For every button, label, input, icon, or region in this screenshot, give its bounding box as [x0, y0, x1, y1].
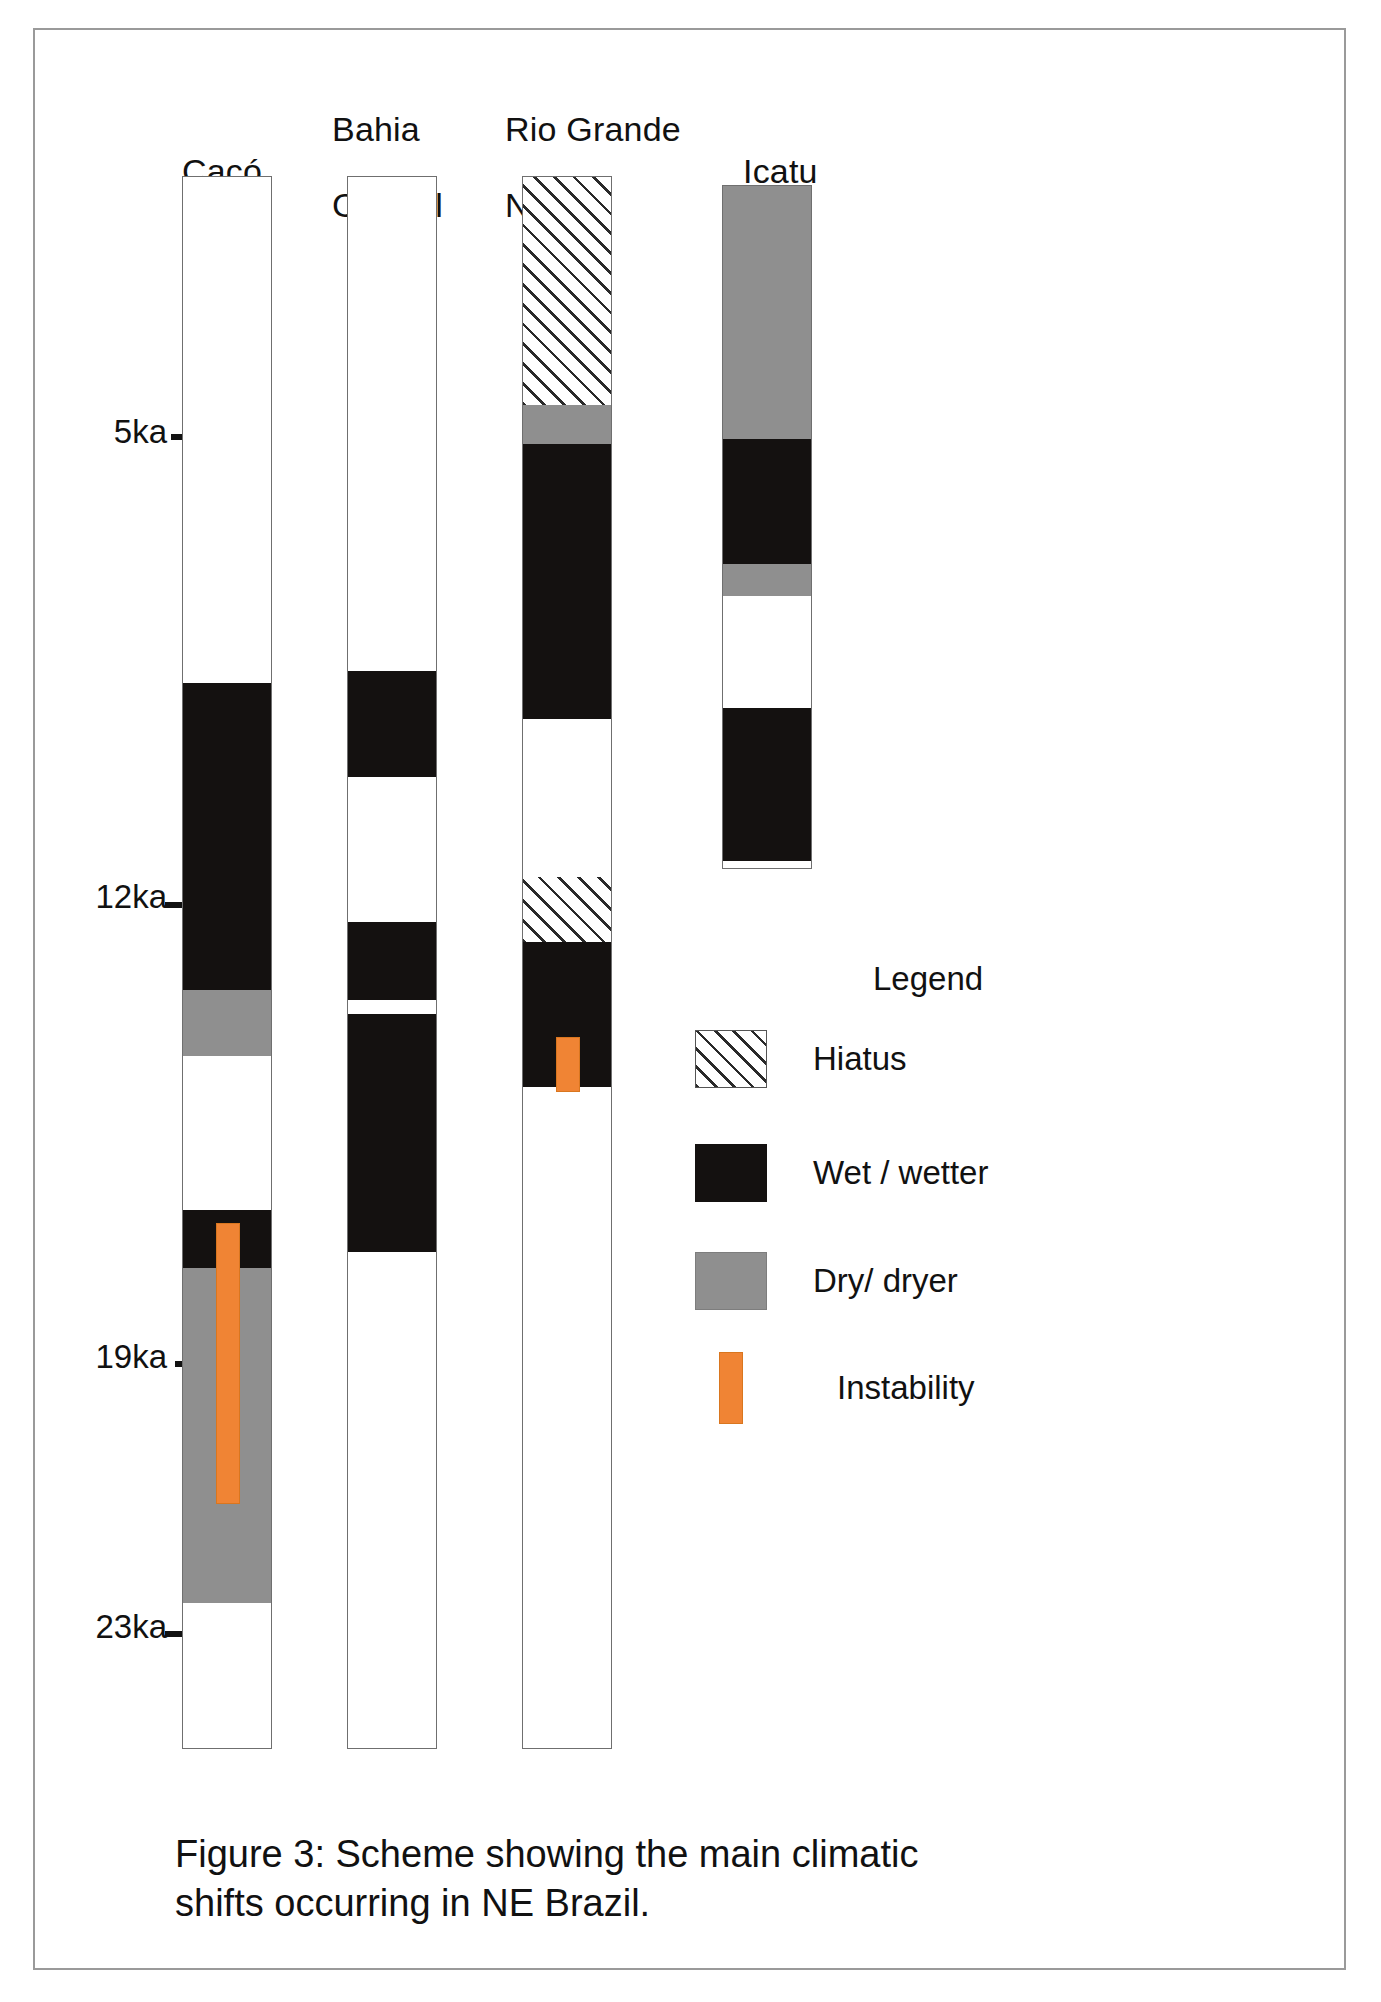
segment-icatu-dry-2	[723, 564, 811, 596]
tick-text-12ka: 12ka	[95, 878, 167, 915]
legend-item-instability[interactable]: Instability	[695, 1352, 975, 1424]
legend-label-instability: Instability	[837, 1369, 975, 1407]
segment-icatu-wet-1	[723, 439, 811, 564]
segment-bahia-none-4	[348, 1252, 436, 1749]
segment-rgn-hiatus-1	[523, 177, 611, 405]
column-icatu[interactable]	[722, 185, 812, 869]
segment-rgn-hiatus-2	[523, 877, 611, 942]
column-header-bahia-line1: Bahia	[332, 110, 420, 148]
segment-bahia-none-3	[348, 1000, 436, 1014]
segment-rgn-wet-1	[523, 444, 611, 719]
caption-line-1: Figure 3: Scheme showing the main climat…	[175, 1833, 918, 1875]
segment-caco-dry-1	[183, 990, 271, 1056]
segment-caco-none-3	[183, 1603, 271, 1749]
column-rio-grande-norte[interactable]	[522, 176, 612, 1749]
axis-tick-label-19ka: 19ka	[35, 1338, 167, 1376]
segment-icatu-dry-1	[723, 186, 811, 439]
segment-rgn-dry-1	[523, 405, 611, 444]
legend-swatch-wet-icon	[695, 1144, 767, 1202]
figure-page: Caçó Bahia Central Rio Grande Norte Icat…	[0, 0, 1381, 2002]
segment-icatu-none-2	[723, 861, 811, 869]
figure-frame: Caçó Bahia Central Rio Grande Norte Icat…	[33, 28, 1346, 1970]
caption-line-2: shifts occurring in NE Brazil.	[175, 1882, 650, 1924]
segment-bahia-wet-2	[348, 922, 436, 1000]
segment-bahia-none-2	[348, 777, 436, 922]
segment-bahia-none-1	[348, 177, 436, 671]
tick-text-5ka: 5ka	[114, 413, 167, 450]
segment-icatu-none-1	[723, 596, 811, 708]
tick-text-19ka: 19ka	[95, 1338, 167, 1375]
segment-bahia-wet-3	[348, 1014, 436, 1252]
segment-icatu-wet-2	[723, 708, 811, 861]
legend-swatch-dry-icon	[695, 1252, 767, 1310]
legend-item-hiatus[interactable]: Hiatus	[695, 1030, 907, 1088]
legend-swatch-hiatus-icon	[695, 1030, 767, 1088]
legend-label-dry: Dry/ dryer	[813, 1262, 958, 1300]
segment-caco-none-1	[183, 177, 271, 683]
segment-caco-wet-1	[183, 683, 271, 990]
axis-tick-label-23ka: 23ka	[35, 1608, 167, 1646]
legend: Legend Hiatus Wet / wetter Dry/ dryer In…	[695, 960, 1315, 1380]
legend-swatch-instability-icon	[719, 1352, 743, 1424]
column-caco[interactable]	[182, 176, 272, 1749]
legend-label-wet: Wet / wetter	[813, 1154, 988, 1192]
segment-rgn-none-1	[523, 719, 611, 877]
column-bahia-central[interactable]	[347, 176, 437, 1749]
tick-text-23ka: 23ka	[95, 1608, 167, 1645]
axis-tick-label-5ka: 5ka	[45, 413, 167, 451]
axis-tick-label-12ka: 12ka	[35, 878, 167, 916]
figure-caption: Figure 3: Scheme showing the main climat…	[175, 1830, 1275, 1927]
column-header-rgn-line1: Rio Grande	[505, 110, 681, 148]
instability-bar-rio-grande-norte	[556, 1037, 580, 1092]
legend-item-dry[interactable]: Dry/ dryer	[695, 1252, 958, 1310]
legend-label-hiatus: Hiatus	[813, 1040, 907, 1078]
instability-bar-caco	[216, 1223, 240, 1504]
segment-bahia-wet-1	[348, 671, 436, 777]
legend-title-text: Legend	[873, 960, 983, 997]
legend-title: Legend	[873, 960, 983, 998]
legend-item-wet[interactable]: Wet / wetter	[695, 1144, 988, 1202]
segment-caco-none-2	[183, 1056, 271, 1210]
segment-rgn-none-2	[523, 1087, 611, 1749]
column-header-icatu: Icatu	[743, 114, 943, 190]
